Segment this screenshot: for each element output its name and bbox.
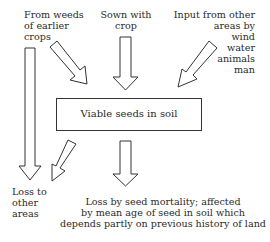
viable-seeds-box: Viable seeds in soil (56, 98, 202, 131)
label-from-weeds: From weeds of earlier crops (24, 9, 84, 42)
arrow-loss-to-other-areas (19, 48, 41, 180)
label-sown-with-crop: Sown with crop (100, 9, 152, 31)
arrow-sown-with-crop (113, 37, 138, 90)
arrow-loss-small-diagonal (52, 140, 76, 181)
label-loss-seed-mortality: Loss by seed mortality; affected by mean… (58, 196, 268, 229)
box-label: Viable seeds in soil (57, 108, 201, 119)
label-input-other-areas: Input from other areas by wind water ani… (168, 9, 255, 75)
arrow-loss-seed-mortality (113, 141, 138, 186)
label-loss-other-areas: Loss to other areas (12, 186, 47, 219)
arrow-from-weeds (50, 41, 87, 84)
